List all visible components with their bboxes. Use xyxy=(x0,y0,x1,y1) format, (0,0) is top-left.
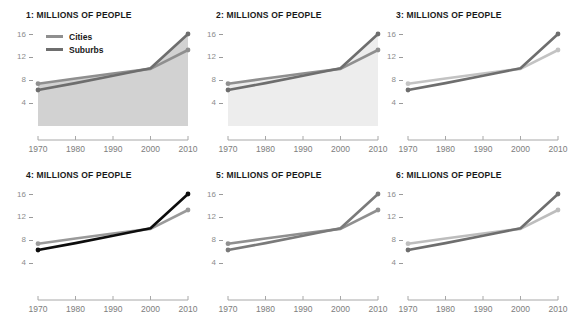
data-point-marker xyxy=(226,81,231,86)
data-point-marker xyxy=(556,48,561,53)
chart-canvas xyxy=(370,0,560,160)
data-point-marker xyxy=(36,241,41,246)
data-point-marker xyxy=(36,248,41,253)
chart-legend: CitiesSuburbs xyxy=(46,30,103,56)
chart-panel-3: 3: MILLIONS OF PEOPLE4812161970198019902… xyxy=(370,0,560,160)
chart-canvas xyxy=(370,160,560,319)
data-point-marker xyxy=(406,81,411,86)
data-point-marker xyxy=(226,241,231,246)
data-point-marker xyxy=(36,88,41,93)
data-point-marker xyxy=(226,248,231,253)
chart-canvas xyxy=(190,160,380,319)
chart-panel-6: 6: MILLIONS OF PEOPLE4812161970198019902… xyxy=(370,160,560,319)
legend-swatch-icon xyxy=(46,48,63,52)
data-point-marker xyxy=(406,241,411,246)
data-point-marker xyxy=(36,81,41,86)
data-point-marker xyxy=(406,248,411,253)
legend-item: Suburbs xyxy=(46,43,103,56)
chart-panel-2: 2: MILLIONS OF PEOPLE4812161970198019902… xyxy=(190,0,370,160)
chart-panel-4: 4: MILLIONS OF PEOPLE4812161970198019902… xyxy=(0,160,190,319)
legend-label: Suburbs xyxy=(69,45,103,55)
legend-swatch-icon xyxy=(46,35,63,39)
data-point-marker xyxy=(556,192,561,197)
chart-canvas xyxy=(0,0,190,160)
data-point-marker xyxy=(226,88,231,93)
data-point-marker xyxy=(406,88,411,93)
chart-canvas xyxy=(0,160,190,319)
legend-item: Cities xyxy=(46,30,103,43)
legend-label: Cities xyxy=(69,32,92,42)
data-point-marker xyxy=(556,32,561,37)
chart-canvas xyxy=(190,0,380,160)
chart-panel-5: 5: MILLIONS OF PEOPLE4812161970198019902… xyxy=(190,160,370,319)
chart-panel-1: 1: MILLIONS OF PEOPLE4812161970198019902… xyxy=(0,0,190,160)
data-point-marker xyxy=(556,208,561,213)
